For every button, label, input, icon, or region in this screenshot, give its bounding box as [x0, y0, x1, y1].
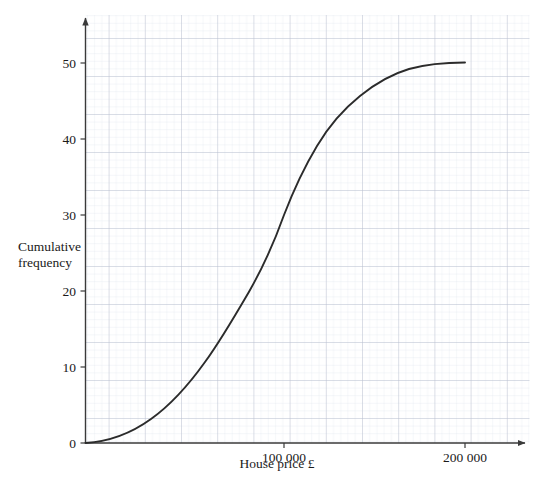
x-axis-ticks — [284, 443, 465, 448]
x-axis-title: House price £ — [0, 456, 554, 472]
y-tick-label-20: 20 — [36, 285, 76, 299]
chart-plot-area — [0, 0, 554, 483]
graph-paper-grid — [86, 15, 530, 443]
y-axis-title-line-2: frequency — [18, 255, 81, 271]
y-tick-label-10: 10 — [36, 361, 76, 375]
cumulative-frequency-chart: 0 10 20 30 40 50 100 000 200 000 Cumulat… — [0, 0, 554, 483]
y-tick-label-40: 40 — [36, 133, 76, 147]
y-tick-label-30: 30 — [36, 209, 76, 223]
y-tick-label-50: 50 — [36, 57, 76, 71]
y-axis-title: Cumulative frequency — [18, 239, 81, 271]
y-tick-label-0: 0 — [36, 437, 76, 451]
y-axis-title-line-1: Cumulative — [18, 239, 81, 255]
y-axis-ticks — [81, 63, 86, 443]
